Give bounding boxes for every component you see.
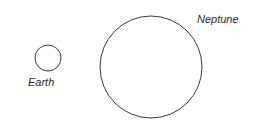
planet-size-diagram: Earth Neptune: [0, 0, 276, 125]
earth-circle: [35, 45, 61, 71]
neptune-circle: [100, 16, 202, 118]
earth-label: Earth: [28, 76, 54, 88]
neptune-label: Neptune: [197, 13, 239, 25]
